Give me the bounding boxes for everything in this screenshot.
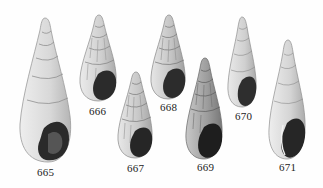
shell-671-illustration — [267, 39, 307, 160]
shell-665-number: 665 — [37, 166, 54, 178]
shell-669-illustration — [184, 57, 224, 160]
shell-669-number: 669 — [197, 161, 214, 173]
shell-670-illustration — [226, 16, 258, 108]
shell-665-illustration — [16, 16, 74, 164]
shell-666-illustration — [78, 14, 118, 102]
shell-plate: 665 666 667 — [0, 0, 323, 188]
shell-668-illustration — [149, 14, 187, 100]
shell-670-number: 670 — [235, 110, 252, 122]
shell-667-number: 667 — [127, 162, 144, 174]
shell-671-number: 671 — [279, 161, 296, 173]
shell-668-number: 668 — [160, 101, 177, 113]
shell-666-number: 666 — [89, 105, 106, 117]
